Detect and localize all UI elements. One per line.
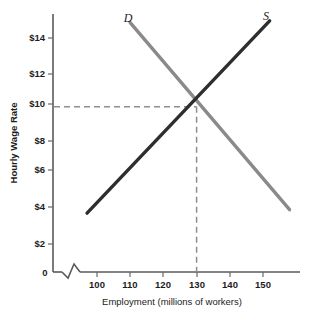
x-axis-title: Employment (millions of workers) — [102, 296, 242, 307]
curves-group — [87, 21, 290, 213]
origin-label: 0 — [42, 267, 47, 278]
x-tick-label-100: 100 — [89, 279, 105, 290]
x-tick-label-110: 110 — [122, 279, 137, 290]
demand-curve — [130, 23, 289, 210]
y-tick-label-14: $14 — [29, 32, 46, 43]
equilibrium-guides — [54, 107, 197, 272]
x-tick-label-150: 150 — [255, 279, 271, 290]
x-tick-label-130: 130 — [189, 279, 205, 290]
y-tick-label-6: $6 — [34, 164, 45, 175]
axis-break-icon — [62, 264, 80, 278]
y-tick-label-4: $4 — [34, 201, 45, 212]
y-tick-label-10: $10 — [29, 98, 45, 109]
y-tick-label-12: $12 — [29, 68, 45, 79]
y-tick-labels-group: $2 $4 $6 $8 $10 $12 $14 — [29, 32, 46, 249]
x-tick-label-120: 120 — [155, 279, 171, 290]
y-tick-label-8: $8 — [34, 135, 45, 146]
supply-demand-chart: $2 $4 $6 $8 $10 $12 $14 0 100 110 120 13… — [0, 0, 312, 314]
chart-canvas: $2 $4 $6 $8 $10 $12 $14 0 100 110 120 13… — [0, 0, 312, 314]
y-axis-title: Hourly Wage Rate — [8, 103, 19, 184]
y-tick-label-2: $2 — [34, 238, 45, 249]
x-tick-label-140: 140 — [222, 279, 238, 290]
demand-curve-label: D — [123, 11, 133, 25]
axes-group — [53, 14, 300, 278]
x-tick-labels-group: 100 110 120 130 140 150 — [89, 279, 271, 290]
supply-curve-label: S — [263, 9, 269, 23]
supply-curve — [87, 21, 270, 213]
